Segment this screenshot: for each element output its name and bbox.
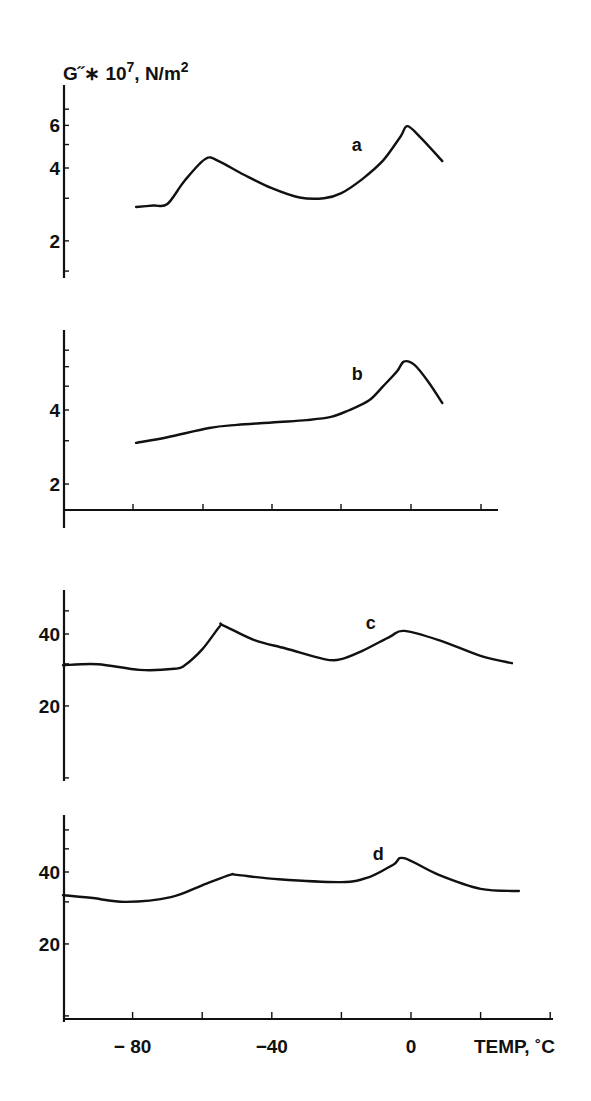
curve-b <box>136 361 442 443</box>
dma-loss-modulus-figure: G˝∗ 107, N/m2 246a24b2040c2040d − 80−400… <box>0 0 591 1101</box>
curve-label-d: d <box>373 844 384 864</box>
x-tick-label: − 80 <box>114 1036 152 1057</box>
curve-label-b: b <box>352 364 363 384</box>
panel-c: 2040c <box>39 590 512 781</box>
y-tick-label: 40 <box>39 862 60 883</box>
curve-d <box>63 858 519 902</box>
y-tick-label: 2 <box>49 231 60 252</box>
panel-a: 246a <box>49 85 442 278</box>
panel-b: 24b <box>49 330 498 528</box>
y-tick-label: 4 <box>49 400 60 421</box>
panel-d: 2040d <box>39 815 519 1022</box>
curve-label-c: c <box>366 613 376 633</box>
x-tick-label: 0 <box>406 1036 417 1057</box>
y-tick-label: 6 <box>49 115 60 136</box>
x-axis-title: TEMP, ˚C <box>474 1036 555 1057</box>
y-tick-label: 20 <box>39 934 60 955</box>
y-tick-label: 40 <box>39 624 60 645</box>
curve-label-a: a <box>352 135 363 155</box>
y-tick-label: 2 <box>49 474 60 495</box>
y-tick-label: 4 <box>49 158 60 179</box>
y-axis-title: G˝∗ 107, N/m2 <box>63 59 189 84</box>
y-tick-label: 20 <box>39 696 60 717</box>
x-tick-label: −40 <box>256 1036 288 1057</box>
curve-a <box>136 126 442 207</box>
curve-c <box>63 624 512 671</box>
